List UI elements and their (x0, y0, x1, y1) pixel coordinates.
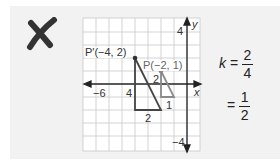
large-triangle-height-label: 4 (126, 88, 132, 99)
simplified-equation: = 1 2 (227, 90, 250, 123)
x-tick-neg6: −6 (93, 88, 106, 99)
k-variable: k (219, 55, 226, 71)
scale-factor-equation: k = 2 4 (219, 48, 253, 81)
equals-sign: = (227, 97, 235, 113)
y-axis-label: y (192, 19, 198, 30)
small-triangle-height-label: 2 (153, 74, 159, 85)
small-triangle-base-label: 1 (166, 100, 172, 111)
point-p-label: P(−2, 1) (143, 60, 182, 71)
fraction-1-2: 1 2 (239, 90, 250, 123)
large-triangle-base-label: 2 (145, 113, 151, 124)
y-tick-neg4: −4 (172, 137, 185, 148)
equals-sign: = (230, 55, 238, 71)
point-p-prime-label: P′(−4, 2) (85, 47, 127, 58)
x-axis-label: x (194, 87, 200, 98)
fraction-2-4: 2 4 (242, 48, 253, 81)
y-tick-4: 4 (177, 26, 183, 37)
coordinate-grid (0, 0, 280, 165)
